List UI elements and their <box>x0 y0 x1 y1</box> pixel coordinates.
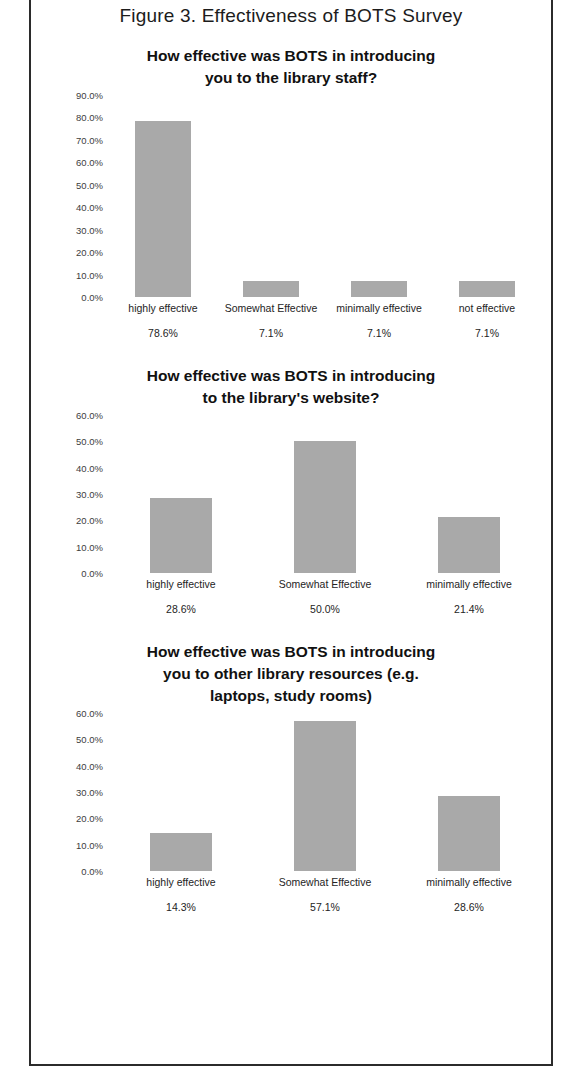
bar-slot <box>109 95 217 297</box>
category-label: highly effective <box>109 578 253 590</box>
bar <box>243 281 299 297</box>
category-label: not effective <box>433 302 541 314</box>
bar <box>150 833 212 871</box>
edge-text-fragment: i <box>0 795 18 821</box>
y-axis-tick-label: 50.0% <box>76 734 103 745</box>
edge-text-fragment: r <box>0 212 18 238</box>
edge-text-fragment: t <box>0 848 18 874</box>
category-label: Somewhat Effective <box>217 302 325 314</box>
value-label: 7.1% <box>217 327 325 339</box>
value-label: 50.0% <box>253 603 397 615</box>
page-edge-text-sliver: estoreinalsoreditsen <box>0 0 26 1079</box>
y-axis-tick-label: 60.0% <box>76 410 103 421</box>
edge-text-fragment: d <box>0 742 18 768</box>
y-axis-tick-label: 60.0% <box>76 708 103 719</box>
value-label: 78.6% <box>109 327 217 339</box>
value-label: 7.1% <box>433 327 541 339</box>
chart-title: How effective was BOTS in introducingto … <box>31 365 551 409</box>
value-label: 7.1% <box>325 327 433 339</box>
value-labels-row: 14.3%57.1%28.6% <box>109 901 541 913</box>
chart-block-other-resources: How effective was BOTS in introducingyou… <box>31 641 551 913</box>
figure-frame: Figure 3. Effectiveness of BOTS Survey H… <box>29 0 553 1066</box>
value-labels-row: 28.6%50.0%21.4% <box>109 603 541 615</box>
edge-text-fragment: e <box>0 0 18 26</box>
chart-title-line: you to the library staff? <box>69 67 513 89</box>
category-labels-row: highly effectiveSomewhat Effectiveminima… <box>109 578 541 590</box>
category-label: highly effective <box>109 876 253 888</box>
y-axis-tick-label: 20.0% <box>76 515 103 526</box>
y-axis-tick-label: 20.0% <box>76 247 103 258</box>
bar-slot <box>253 415 397 573</box>
edge-text-fragment: s <box>0 53 18 79</box>
y-axis-tick-label: 30.0% <box>76 787 103 798</box>
bar <box>294 441 356 573</box>
y-axis-tick-label: 10.0% <box>76 839 103 850</box>
edge-text-fragment: n <box>0 371 18 397</box>
y-axis-tick-label: 40.0% <box>76 760 103 771</box>
bar-slot <box>109 713 253 871</box>
y-axis-tick-label: 80.0% <box>76 112 103 123</box>
category-labels-row: highly effectiveSomewhat Effectiveminima… <box>109 302 541 314</box>
edge-text-fragment: e <box>0 265 18 291</box>
y-axis-tick-label: 20.0% <box>76 813 103 824</box>
category-labels-row: highly effectiveSomewhat Effectiveminima… <box>109 876 541 888</box>
y-axis-tick-label: 0.0% <box>81 292 103 303</box>
edge-text-fragment: e <box>0 689 18 715</box>
chart-title: How effective was BOTS in introducingyou… <box>31 641 551 707</box>
edge-text-fragment: s <box>0 530 18 556</box>
value-labels-row: 78.6%7.1%7.1%7.1% <box>109 327 541 339</box>
category-label: minimally effective <box>397 876 541 888</box>
bar <box>150 498 212 573</box>
category-label: Somewhat Effective <box>253 876 397 888</box>
bar <box>438 517 500 573</box>
bar-slot <box>433 95 541 297</box>
bar <box>438 796 500 871</box>
bar <box>135 121 191 297</box>
chart-title-line: How effective was BOTS in introducing <box>69 365 513 387</box>
bar-slot <box>325 95 433 297</box>
chart-title-line: How effective was BOTS in introducing <box>69 45 513 67</box>
bar <box>294 721 356 871</box>
chart-title-line: to the library's website? <box>69 387 513 409</box>
y-axis-tick-label: 40.0% <box>76 202 103 213</box>
plot-area-wrapper: 60.0%50.0%40.0%30.0%20.0%10.0%0.0% <box>31 415 551 573</box>
edge-text-fragment: s <box>0 901 18 927</box>
bars-container <box>109 713 541 871</box>
bar-slot <box>397 415 541 573</box>
y-axis: 60.0%50.0%40.0%30.0%20.0%10.0%0.0% <box>31 713 107 871</box>
edge-text-fragment: o <box>0 159 18 185</box>
chart-block-library-website: How effective was BOTS in introducingto … <box>31 365 551 615</box>
figure-caption: Figure 3. Effectiveness of BOTS Survey <box>31 0 551 27</box>
bar-slot <box>109 415 253 573</box>
edge-text-fragment: l <box>0 477 18 503</box>
y-axis-tick-label: 10.0% <box>76 541 103 552</box>
chart-title: How effective was BOTS in introducingyou… <box>31 45 551 89</box>
edge-text-fragment: r <box>0 636 18 662</box>
y-axis: 90.0%80.0%70.0%60.0%50.0%40.0%30.0%20.0%… <box>31 95 107 297</box>
chart-block-library-staff: How effective was BOTS in introducingyou… <box>31 45 551 339</box>
edge-text-fragment: i <box>0 318 18 344</box>
value-label: 57.1% <box>253 901 397 913</box>
y-axis-tick-label: 60.0% <box>76 157 103 168</box>
bar-slot <box>397 713 541 871</box>
y-axis: 60.0%50.0%40.0%30.0%20.0%10.0%0.0% <box>31 415 107 573</box>
value-label: 14.3% <box>109 901 253 913</box>
y-axis-tick-label: 40.0% <box>76 462 103 473</box>
y-axis-tick-label: 30.0% <box>76 489 103 500</box>
y-axis-tick-label: 0.0% <box>81 568 103 579</box>
category-label: minimally effective <box>397 578 541 590</box>
value-label: 28.6% <box>109 603 253 615</box>
y-axis-tick-label: 10.0% <box>76 269 103 280</box>
y-axis-tick-label: 30.0% <box>76 224 103 235</box>
value-label: 28.6% <box>397 901 541 913</box>
bar <box>459 281 515 297</box>
category-label: Somewhat Effective <box>253 578 397 590</box>
bar <box>351 281 407 297</box>
edge-text-fragment: a <box>0 424 18 450</box>
bar-slot <box>217 95 325 297</box>
chart-title-line: you to other library resources (e.g. <box>69 663 513 685</box>
y-axis-tick-label: 90.0% <box>76 90 103 101</box>
chart-title-line: laptops, study rooms) <box>69 685 513 707</box>
chart-title-line: How effective was BOTS in introducing <box>69 641 513 663</box>
bars-container <box>109 95 541 297</box>
